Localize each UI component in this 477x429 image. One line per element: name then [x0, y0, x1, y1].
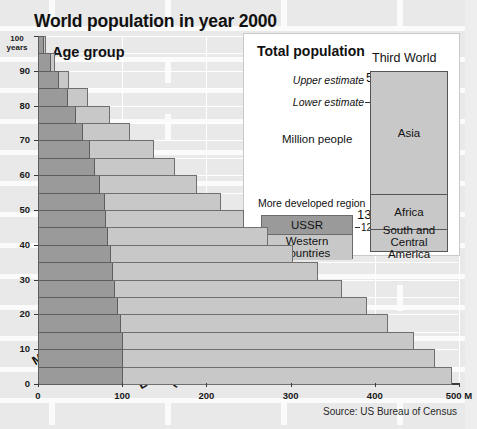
- y-axis-label: 50: [0, 204, 30, 215]
- y-axis-label: 0: [0, 378, 30, 389]
- upper-estimate-label: Upper estimate: [264, 74, 364, 86]
- age-group-label: Age group: [52, 44, 125, 60]
- x-axis-label: 200: [186, 390, 226, 401]
- bar-less-developed: [99, 175, 198, 193]
- y-axis-tick: [34, 349, 38, 350]
- bar-less-developed: [122, 332, 413, 350]
- third-world-stacked-bar: Asia Africa South and Central America: [370, 71, 448, 252]
- lower-estimate-label: Lower estimate: [264, 96, 364, 108]
- x-axis-label: 400: [355, 390, 395, 401]
- y-axis-tick: [34, 280, 38, 281]
- bar-less-developed: [107, 227, 268, 245]
- x-axis-tick: [375, 383, 376, 387]
- y-axis-tick: [34, 36, 38, 37]
- bar-more-developed: [38, 193, 105, 211]
- bar-more-developed: [38, 106, 76, 124]
- bar-more-developed: [38, 175, 100, 193]
- y-axis-tick: [34, 71, 38, 72]
- bar-less-developed: [122, 367, 451, 385]
- third-world-title: Third World: [372, 51, 436, 65]
- bar-less-developed: [58, 71, 69, 89]
- bar-more-developed: [38, 245, 111, 263]
- bar-more-developed: [38, 314, 121, 332]
- y-axis-tick: [34, 245, 38, 246]
- x-axis-label: 500 M: [439, 390, 477, 401]
- bar-more-developed: [38, 71, 59, 89]
- total-population-inset: Total population Upper estimate 5500 Low…: [243, 33, 460, 256]
- inset-more-developed-region-label: More developed region: [258, 197, 365, 209]
- y-axis-label: 80: [0, 100, 30, 111]
- y-axis-label: 10: [0, 343, 30, 354]
- x-axis-tick: [291, 383, 292, 387]
- y-axis-tick: [34, 175, 38, 176]
- x-axis-tick: [459, 383, 460, 387]
- x-axis-label: 0: [18, 390, 58, 401]
- bar-less-developed: [110, 245, 293, 263]
- y-axis-unit: years: [1, 43, 33, 52]
- sca-line-1: South and: [371, 224, 447, 236]
- y-axis-top-value: 100: [1, 34, 33, 43]
- third-world-segment-south-central-america: South and Central America: [371, 229, 447, 253]
- bar-less-developed: [75, 106, 110, 124]
- y-axis-label: 20: [0, 308, 30, 319]
- y-axis-tick: [34, 314, 38, 315]
- bar-less-developed: [94, 158, 176, 176]
- bar-less-developed: [105, 210, 244, 228]
- unit-label: Million people: [282, 133, 352, 145]
- inset-title: Total population: [257, 43, 365, 59]
- bar-less-developed: [112, 262, 318, 280]
- page-title: World population in year 2000: [34, 11, 277, 32]
- y-axis-label: 40: [0, 239, 30, 250]
- y-axis-label: 30: [0, 274, 30, 285]
- bar-less-developed: [104, 193, 221, 211]
- bar-less-developed: [120, 314, 389, 332]
- x-axis-tick: [122, 383, 123, 387]
- legend-segment-ussr: USSR: [262, 216, 352, 235]
- bar-more-developed: [38, 88, 68, 106]
- y-axis-tick: [34, 106, 38, 107]
- bar-more-developed: [38, 36, 44, 54]
- bar-more-developed: [38, 140, 90, 158]
- bar-more-developed: [38, 158, 95, 176]
- y-axis-tick: [34, 210, 38, 211]
- x-axis-label: 300: [271, 390, 311, 401]
- bar-more-developed: [38, 123, 83, 141]
- bar-more-developed: [38, 349, 123, 367]
- y-axis-label: 70: [0, 134, 30, 145]
- x-axis-tick: [38, 383, 39, 387]
- y-axis-tick: [34, 140, 38, 141]
- y-axis-label: 60: [0, 169, 30, 180]
- source-note: Source: US Bureau of Census: [323, 406, 457, 417]
- bar-more-developed: [38, 280, 115, 298]
- bar-more-developed: [38, 210, 106, 228]
- bar-more-developed: [38, 367, 123, 385]
- bar-more-developed: [38, 262, 113, 280]
- bar-more-developed: [38, 332, 123, 350]
- bar-less-developed: [67, 88, 88, 106]
- bar-more-developed: [38, 297, 118, 315]
- x-axis-label: 100: [102, 390, 142, 401]
- bar-less-developed: [89, 140, 154, 158]
- bar-less-developed: [114, 280, 342, 298]
- x-axis-tick: [206, 383, 207, 387]
- third-world-segment-asia: Asia: [371, 72, 447, 194]
- bar-less-developed: [117, 297, 366, 315]
- y-axis-label: 90: [0, 65, 30, 76]
- bar-less-developed: [122, 349, 435, 367]
- bar-more-developed: [38, 227, 108, 245]
- y-axis-label-top: 100years: [1, 34, 33, 52]
- bar-less-developed: [82, 123, 130, 141]
- sca-line-2: Central America: [371, 236, 447, 260]
- more-developed-lower-tick: [355, 227, 360, 228]
- bar-more-developed: [38, 53, 51, 71]
